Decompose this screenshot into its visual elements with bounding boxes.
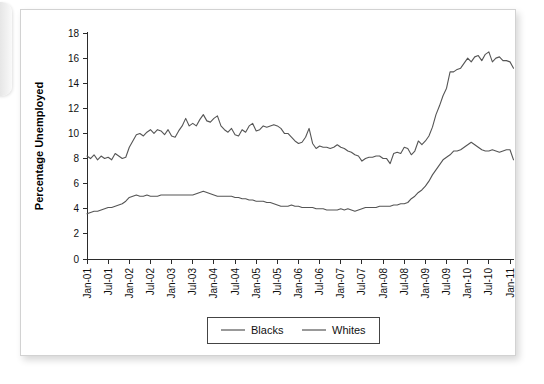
x-axis-ticks: Jan-01Jul-01Jan-02Jul-02Jan-03Jul-03Jan-… [82,259,516,299]
x-tick-label: Jul-01 [103,268,114,296]
y-tick-label: 6 [73,178,79,189]
x-tick-label: Jan-03 [166,268,177,299]
figure-card: 024681012141618 Jan-01Jul-01Jan-02Jul-02… [20,9,516,356]
series-line-whites [87,142,514,214]
unemployment-line-chart: 024681012141618 Jan-01Jul-01Jan-02Jul-02… [21,10,515,355]
y-axis-title-text: Percentage Unemployed [33,82,45,210]
y-tick-label: 0 [73,254,79,265]
chart-legend[interactable]: BlacksWhites [207,317,379,343]
legend-label-blacks[interactable]: Blacks [251,324,284,336]
x-tick-label: Jan-06 [293,268,304,299]
x-tick-label: Jul-02 [145,268,156,296]
x-tick-label: Jan-10 [462,268,473,299]
x-tick-label: Jul-07 [356,268,367,296]
page-edge-tab [0,2,12,96]
x-tick-label: Jan-04 [208,268,219,299]
x-tick-label: Jan-11 [505,268,516,298]
y-tick-label: 4 [73,203,79,214]
y-tick-label: 16 [68,53,80,64]
x-tick-label: Jan-02 [124,268,135,299]
y-tick-label: 14 [68,78,80,89]
series-line-blacks [87,52,514,164]
x-tick-label: Jan-05 [251,268,262,299]
chart-series [87,52,514,214]
y-tick-label: 12 [68,103,80,114]
x-tick-label: Jan-09 [420,268,431,299]
y-axis-title: Percentage Unemployed [33,82,45,210]
x-tick-label: Jul-05 [272,268,283,296]
chart-axes [87,32,514,259]
y-tick-label: 10 [68,128,80,139]
legend-label-whites[interactable]: Whites [332,324,366,336]
figure-screenshot: 024681012141618 Jan-01Jul-01Jan-02Jul-02… [0,0,544,384]
x-tick-label: Jul-06 [314,268,325,296]
x-tick-label: Jan-08 [378,268,389,299]
y-tick-label: 18 [68,28,80,39]
y-tick-label: 2 [73,228,79,239]
y-axis-ticks: 024681012141618 [68,28,87,265]
x-tick-label: Jul-04 [230,268,241,296]
x-tick-label: Jan-01 [82,268,93,299]
x-tick-label: Jul-08 [399,268,410,296]
x-tick-label: Jul-09 [441,268,452,296]
x-tick-label: Jul-03 [187,268,198,296]
x-tick-label: Jan-07 [335,268,346,299]
x-tick-label: Jul-10 [483,268,494,296]
y-tick-label: 8 [73,153,79,164]
